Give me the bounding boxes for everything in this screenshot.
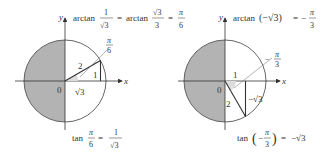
right-adjacent-label: 1 [233, 70, 238, 80]
svg-text:): ) [272, 131, 277, 147]
right-x-axis-label: x [281, 76, 286, 86]
right-angle-num: π [275, 50, 280, 59]
right-top-equation: arctan (−√3) = − π 3 [233, 8, 316, 30]
right-angle-sign: − [265, 55, 270, 64]
left-hypotenuse-label: 2 [78, 61, 83, 71]
right-angle-den: 3 [275, 60, 279, 69]
svg-text:=: = [293, 13, 298, 23]
left-panel: y x 0 2 1 √3 π 6 arctan 1 √3 = arctan √3… [15, 8, 185, 150]
svg-text:−: − [301, 13, 306, 23]
svg-text:6: 6 [179, 21, 183, 30]
svg-text:arctan: arctan [126, 13, 148, 23]
svg-text:3: 3 [310, 21, 314, 30]
svg-text:3: 3 [265, 140, 269, 149]
right-opposite-label: −√3 [248, 94, 263, 104]
svg-text:π: π [265, 128, 270, 137]
svg-text:1: 1 [104, 8, 108, 17]
svg-text:1: 1 [114, 128, 118, 137]
svg-text:=: = [117, 13, 122, 23]
left-x-axis-label: x [123, 76, 128, 86]
left-bottom-equation: tan π 6 = 1 √3 [72, 128, 122, 150]
arctan-diagram: y x 0 2 1 √3 π 6 arctan 1 √3 = arctan √3… [0, 0, 335, 159]
svg-text:arctan: arctan [73, 13, 95, 23]
left-origin-label: 0 [57, 85, 62, 95]
svg-text:−: − [258, 133, 263, 143]
svg-text:3: 3 [155, 21, 159, 30]
right-origin-label: 0 [217, 85, 222, 95]
left-adjacent-label: √3 [75, 87, 85, 97]
svg-text:π: π [179, 8, 184, 17]
left-top-equation: arctan 1 √3 = arctan √3 3 = π 6 [73, 8, 185, 30]
right-panel: y x 0 1 2 −√3 − π 3 arctan (−√3) = − π 3… [178, 8, 316, 149]
svg-text:π: π [310, 8, 315, 17]
svg-text:=: = [168, 13, 173, 23]
left-angle-num: π [107, 36, 112, 45]
svg-text:(: ( [252, 131, 257, 147]
right-hypotenuse-label: 2 [226, 99, 231, 109]
svg-text:tan: tan [237, 133, 248, 143]
svg-text:√3: √3 [153, 8, 161, 17]
svg-text:arctan: arctan [233, 13, 255, 23]
svg-text:−√3: −√3 [291, 133, 306, 143]
left-y-axis-label: y [58, 12, 63, 22]
left-opposite-label: 1 [93, 70, 98, 80]
svg-text:√3: √3 [110, 141, 118, 150]
svg-text:π: π [89, 128, 94, 137]
right-angle-wedge [225, 81, 236, 91]
svg-text:√3: √3 [100, 21, 108, 30]
svg-text:=: = [281, 133, 286, 143]
svg-text:(−√3): (−√3) [259, 12, 282, 24]
svg-text:=: = [98, 133, 103, 143]
left-angle-den: 6 [107, 46, 111, 55]
svg-text:tan: tan [72, 133, 83, 143]
right-y-axis-label: y [218, 12, 223, 22]
svg-text:6: 6 [89, 140, 93, 149]
right-bottom-equation: tan ( − π 3 ) = −√3 [237, 128, 306, 149]
